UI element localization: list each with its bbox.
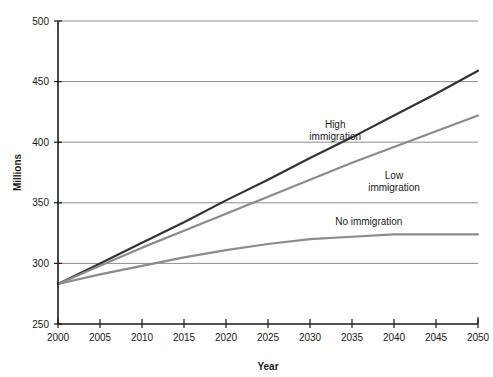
y-axis-group: 250300350400450500 [32,16,62,330]
series-annotation-text: immigration [368,182,420,193]
series-annotation-text: No immigration [335,216,402,227]
x-axis-group: 2000200520102015202020252030203520402045… [47,317,490,343]
series-annotation-low-immigration: Lowimmigration [368,170,420,193]
y-tick-label: 400 [32,137,49,148]
x-tick-label: 2030 [299,332,322,343]
x-tick-label: 2020 [215,332,238,343]
chart-svg: 250300350400450500 200020052010201520202… [0,0,493,377]
series-line-high-immigration [58,71,478,284]
y-tick-label: 350 [32,197,49,208]
population-projection-chart: 250300350400450500 200020052010201520202… [0,0,493,377]
x-tick-label: 2000 [47,332,70,343]
x-tick-label: 2025 [257,332,280,343]
x-axis-title: Year [257,361,278,372]
y-tick-label: 300 [32,258,49,269]
x-tick-label: 2040 [383,332,406,343]
gridlines-group [58,21,478,263]
y-tick-label: 250 [32,319,49,330]
x-tick-label: 2050 [467,332,490,343]
y-tick-label: 500 [32,16,49,27]
y-tick-label: 450 [32,76,49,87]
x-tick-label: 2035 [341,332,364,343]
series-line-no-immigration [58,234,478,284]
x-tick-label: 2045 [425,332,448,343]
series-group [58,71,478,284]
series-annotation-no-immigration: No immigration [335,216,402,227]
x-tick-label: 2015 [173,332,196,343]
series-annotation-text: immigration [309,131,361,142]
series-annotation-text: High [325,119,346,130]
series-line-low-immigration [58,116,478,284]
x-tick-label: 2010 [131,332,154,343]
series-annotation-text: Low [385,170,404,181]
x-tick-label: 2005 [89,332,112,343]
series-annotation-high-immigration: Highimmigration [309,119,361,142]
y-axis-title: Millions [12,153,23,191]
